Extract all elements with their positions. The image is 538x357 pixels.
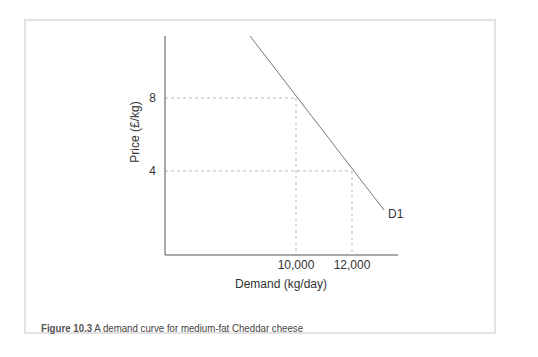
x-tick-10000: 10,000 <box>278 258 315 272</box>
y-tick-8: 8 <box>149 91 156 105</box>
x-axis-label: Demand (kg/day) <box>235 277 327 291</box>
demand-chart: 8 4 10,000 12,000 D1 Demand (kg/day) Pri… <box>0 0 538 357</box>
demand-curve-d1 <box>250 36 384 210</box>
x-tick-12000: 12,000 <box>334 258 371 272</box>
figure-caption: Figure 10.3 A demand curve for medium-fa… <box>41 322 303 334</box>
series-label-d1: D1 <box>388 207 404 221</box>
caption-text: A demand curve for medium-fat Cheddar ch… <box>92 322 303 334</box>
y-tick-4: 4 <box>149 164 156 178</box>
caption-label: Figure 10.3 <box>41 322 92 334</box>
y-axis-label: Price (£/kg) <box>128 101 142 162</box>
reference-lines <box>165 98 352 255</box>
